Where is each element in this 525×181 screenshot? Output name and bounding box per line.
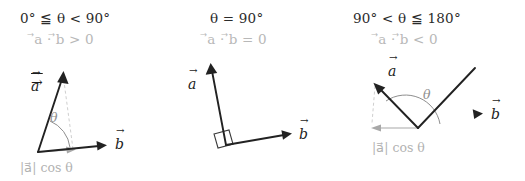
- vector-b-shaft: [226, 135, 284, 145]
- angle-label: θ: [50, 110, 58, 125]
- vector-b-head: [281, 130, 292, 140]
- vector-b-label: → b: [115, 136, 124, 152]
- panel-right: θ = 90° ⃗a · ⃗b = 0 → a → b: [175, 0, 350, 181]
- vector-b-label: → b: [299, 126, 308, 142]
- projection-dashed-line: [63, 74, 73, 149]
- panel-obtuse: 90° < θ ≦ 180° ⃗a · ⃗b < 0 → a: [350, 0, 525, 181]
- panel-acute: 0° ≦ θ < 90° ⃗a · ⃗b > 0 → → a: [0, 0, 175, 181]
- panel-right-diagram: [175, 0, 350, 181]
- vector-dot-product-figure: 0° ≦ θ < 90° ⃗a · ⃗b > 0 → → a: [0, 0, 525, 181]
- projection-dashed-line: [372, 86, 375, 123]
- vector-a-label-text: → a: [31, 78, 39, 94]
- vector-a-label: → a: [388, 63, 396, 79]
- vector-a-head: [57, 71, 68, 84]
- projection-label: |a⃗| cos θ: [372, 140, 425, 155]
- vector-a-shaft: [380, 89, 418, 128]
- panel-acute-diagram: [0, 0, 175, 181]
- vector-a-head: [206, 63, 218, 75]
- vector-b-head: [97, 141, 108, 151]
- projection-label: |a⃗| cos θ: [20, 160, 73, 175]
- angle-arc: [386, 95, 440, 124]
- angle-label: θ: [423, 87, 431, 102]
- vector-a-label: → a: [188, 76, 196, 92]
- vector-b-label: → b: [491, 106, 500, 122]
- projection-arrow-head: [371, 124, 381, 131]
- vector-b-head: [473, 109, 483, 119]
